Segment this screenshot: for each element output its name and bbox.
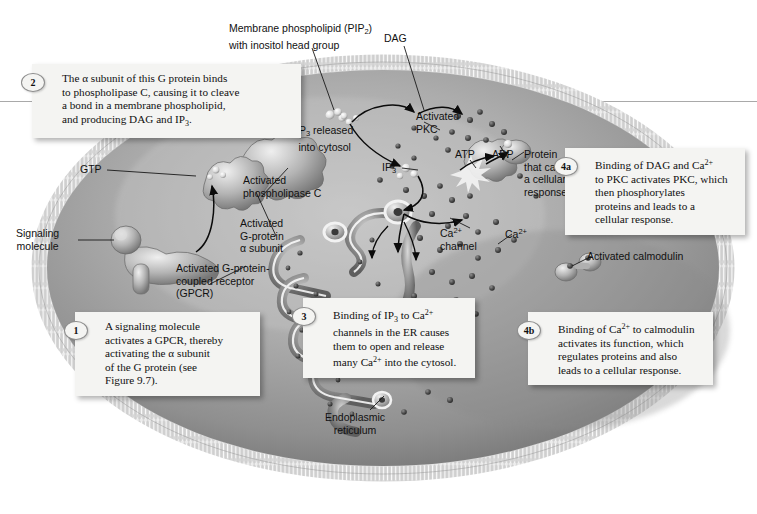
label-atp: ATP <box>455 148 475 161</box>
callout-text-3: Binding of IP3 to Ca2+ channels in the E… <box>303 298 475 378</box>
callout-step-1[interactable]: 1 A signaling molecule activates a GPCR,… <box>75 312 260 396</box>
callout-badge-3: 3 <box>292 307 316 326</box>
callout-text-4b: Binding of Ca2+ to calmodulin activates … <box>528 312 713 385</box>
label-adp: ADP <box>492 148 514 161</box>
label-signaling-molecule: Signalingmolecule <box>16 227 59 252</box>
callout-badge-4a: 4a <box>554 157 578 176</box>
label-gtp: GTP <box>80 163 102 176</box>
label-activated-pkc: ActivatedPKC <box>416 110 459 135</box>
label-dag: DAG <box>384 32 407 45</box>
label-activated-calmodulin: Activated calmodulin <box>587 250 683 263</box>
callout-badge-1: 1 <box>64 321 88 340</box>
label-membrane-phospholipid: Membrane phospholipid (PIP2)with inosito… <box>229 22 372 51</box>
callout-step-4b[interactable]: 4b Binding of Ca2+ to calmodulin activat… <box>528 312 713 385</box>
label-activated-g-alpha: ActivatedG-proteinα subunit <box>240 217 284 255</box>
callout-step-2[interactable]: 2 The α subunit of this G protein binds … <box>32 64 301 138</box>
label-ip3: IP3 <box>382 161 396 178</box>
callout-text-1: A signaling molecule activates a GPCR, t… <box>75 312 260 396</box>
label-ip3-released: IP3 releasedinto cytosol <box>296 124 353 153</box>
callout-badge-2: 2 <box>21 73 45 92</box>
label-endoplasmic-reticulum: Endoplasmicreticulum <box>325 411 385 436</box>
label-activated-plc: Activatedphospholipase C <box>243 174 321 199</box>
callout-badge-4b: 4b <box>517 321 541 340</box>
callout-text-2: The α subunit of this G protein binds to… <box>32 64 301 138</box>
callout-step-4a[interactable]: 4a Binding of DAG and Ca2+ to PKC activa… <box>565 148 745 235</box>
callout-step-3[interactable]: 3 Binding of IP3 to Ca2+ channels in the… <box>303 298 475 378</box>
figure-canvas: Membrane phospholipid (PIP2)with inosito… <box>0 0 757 514</box>
label-ca-channel: Ca2+channel <box>440 225 477 252</box>
signaling-molecule <box>111 226 141 254</box>
label-activated-gpcr: Activated G-protein-coupled receptor(GPC… <box>176 262 269 300</box>
callout-text-4a: Binding of DAG and Ca2+ to PKC activates… <box>565 148 745 235</box>
label-ca-ion: Ca2+ <box>505 226 527 241</box>
